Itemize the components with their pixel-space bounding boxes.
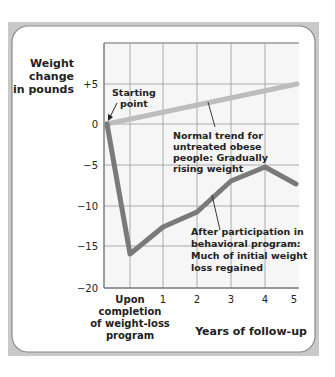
x-tick-5: 5 [291, 294, 297, 305]
x-tick-upon-3: of weight-loss [90, 318, 170, 329]
normal-label-4: rising weight [173, 163, 244, 174]
weight-change-plot: Weight change in pounds +5 0 −5 −10 −15 … [0, 0, 335, 377]
y-tick-minus5: −5 [83, 160, 98, 171]
start-label-1: Starting [112, 87, 156, 98]
x-tick-upon-1: Upon [115, 294, 144, 305]
x-tick-3: 3 [228, 294, 234, 305]
y-tick-0: 0 [92, 119, 98, 130]
x-axis-title: Years of follow-up [194, 325, 307, 338]
normal-label-3: people: Gradually [173, 152, 269, 163]
x-tick-2: 2 [194, 294, 200, 305]
after-label-3: Much of initial weight [191, 250, 308, 261]
x-tick-1: 1 [160, 294, 166, 305]
normal-label-2: untreated obese [173, 141, 262, 152]
ylabel-line2: change [29, 70, 74, 83]
y-tick-minus20: −20 [77, 283, 98, 294]
y-tick-minus15: −15 [77, 241, 98, 252]
normal-label-1: Normal trend for [173, 130, 263, 141]
y-tick-plus5: +5 [83, 79, 98, 90]
y-tick-minus10: −10 [77, 201, 98, 212]
ylabel-line3: in pounds [13, 83, 74, 96]
after-label-1: After participation in [191, 226, 304, 237]
after-label-4: loss regained [191, 262, 263, 273]
x-tick-upon-4: program [106, 330, 154, 341]
after-label-2: behavioral program: [191, 238, 301, 249]
x-tick-upon-2: completion [99, 306, 162, 317]
x-tick-4: 4 [262, 294, 268, 305]
start-label-2: point [120, 98, 148, 109]
ylabel-line1: Weight [30, 57, 74, 70]
